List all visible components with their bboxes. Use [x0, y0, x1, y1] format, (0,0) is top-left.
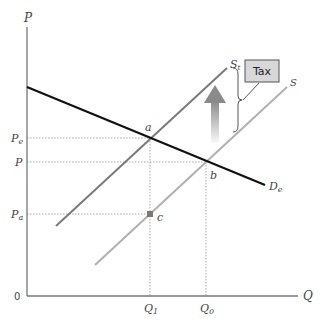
point-a-label: a: [145, 121, 152, 134]
origin-label: 0: [14, 291, 20, 302]
point-c-label: c: [157, 211, 163, 224]
x-axis-label: Q: [303, 289, 313, 303]
point-c-marker: [147, 211, 153, 217]
price-label-p: P: [14, 156, 23, 169]
supply-tax-curve: [56, 68, 227, 226]
tax-incidence-diagram: P Q 0 Pe P Pa Q1 Q0 St S De a b c Tax: [0, 0, 324, 323]
guide-lines: [27, 138, 206, 296]
y-axis-label: P: [23, 11, 33, 25]
quantity-label-q1: Q1: [144, 302, 158, 316]
point-b-label: b: [210, 169, 217, 182]
tax-label: Tax: [252, 65, 272, 78]
tax-brace-icon: [233, 68, 242, 132]
price-label-pa: Pa: [10, 208, 23, 222]
supply-curve: [95, 87, 287, 265]
supply-label: S: [290, 77, 297, 88]
price-label-pe: Pe: [10, 132, 23, 146]
supply-shift-arrow-icon: [204, 85, 226, 143]
quantity-label-q0: Q0: [200, 302, 214, 316]
demand-label: De: [268, 180, 283, 194]
supply-tax-label: St: [230, 58, 241, 72]
tax-callout-leader: [243, 83, 259, 100]
demand-curve: [27, 87, 265, 185]
